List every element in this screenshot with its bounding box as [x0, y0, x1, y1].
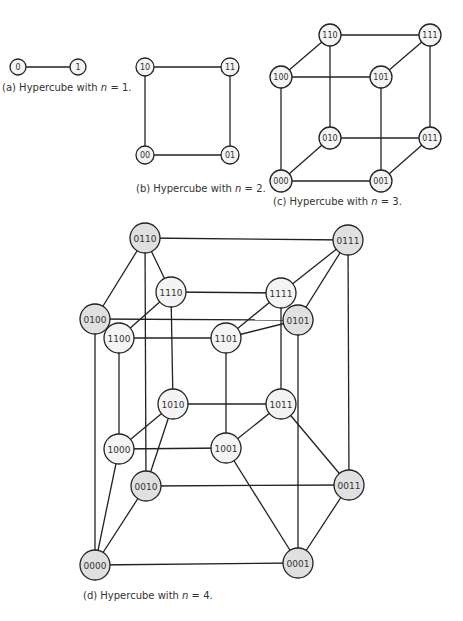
edges	[145, 67, 230, 155]
edge-0010-0011	[146, 485, 349, 486]
node-110: 110	[319, 24, 341, 46]
node-111: 111	[419, 24, 441, 46]
svg-text:101: 101	[373, 73, 388, 82]
svg-text:0110: 0110	[134, 234, 157, 244]
edge-0110-0111	[145, 238, 348, 240]
node-0010: 0010	[131, 471, 161, 501]
svg-text:110: 110	[322, 31, 337, 40]
caption-b: (b) Hypercube with n = 2.	[136, 183, 266, 194]
node-100: 100	[270, 66, 292, 88]
svg-text:001: 001	[373, 177, 388, 186]
svg-text:01: 01	[225, 151, 235, 160]
svg-text:000: 000	[273, 177, 288, 186]
edge-0111-0011	[348, 240, 349, 485]
svg-text:1010: 1010	[162, 400, 185, 410]
caption-c: (c) Hypercube with n = 3.	[273, 196, 402, 207]
svg-text:111: 111	[422, 31, 437, 40]
edge-1011-0011	[281, 404, 349, 485]
node-00: 00	[136, 146, 154, 164]
svg-text:1111: 1111	[270, 289, 293, 299]
edge-1001-0001	[226, 448, 298, 563]
svg-text:0111: 0111	[337, 236, 360, 246]
node-1110: 1110	[156, 277, 186, 307]
node-0011: 0011	[334, 470, 364, 500]
svg-text:1101: 1101	[215, 334, 238, 344]
caption-text: (b) Hypercube with	[136, 183, 235, 194]
svg-text:0001: 0001	[287, 559, 310, 569]
node-0111: 0111	[333, 225, 363, 255]
svg-text:0010: 0010	[135, 482, 158, 492]
node-10: 10	[136, 58, 154, 76]
node-101: 101	[370, 66, 392, 88]
svg-text:11: 11	[225, 63, 235, 72]
node-01: 01	[221, 146, 239, 164]
hypercube-n-c: 110111100101010011000001	[270, 24, 441, 192]
svg-text:1: 1	[75, 63, 80, 72]
node-0001: 0001	[283, 548, 313, 578]
node-1: 1	[70, 59, 86, 75]
svg-text:00: 00	[140, 151, 150, 160]
edge-1000-1001	[119, 448, 226, 449]
node-1101: 1101	[211, 323, 241, 353]
node-1001: 1001	[211, 433, 241, 463]
svg-text:0011: 0011	[338, 481, 361, 491]
svg-text:0000: 0000	[84, 561, 107, 571]
hypercube-diagrams: 0110110001110111100101010011000001011001…	[0, 0, 463, 621]
edge-1110-1111	[171, 292, 281, 293]
svg-text:100: 100	[273, 73, 288, 82]
edge-1110-1010	[171, 292, 173, 404]
node-11: 11	[221, 58, 239, 76]
node-0000: 0000	[80, 550, 110, 580]
svg-text:1001: 1001	[215, 444, 238, 454]
svg-text:1011: 1011	[270, 400, 293, 410]
node-010: 010	[319, 127, 341, 149]
svg-text:1110: 1110	[160, 288, 183, 298]
node-0100: 0100	[80, 304, 110, 334]
edge-0000-0001	[95, 563, 298, 565]
node-1111: 1111	[266, 278, 296, 308]
svg-text:011: 011	[422, 134, 437, 143]
node-0101: 0101	[283, 305, 313, 335]
svg-text:010: 010	[322, 134, 337, 143]
node-1000: 1000	[104, 434, 134, 464]
node-1100: 1100	[104, 323, 134, 353]
caption-a: (a) Hypercube with n = 1.	[2, 82, 131, 93]
svg-text:1000: 1000	[108, 445, 131, 455]
node-000: 000	[270, 170, 292, 192]
node-0110: 0110	[130, 223, 160, 253]
svg-text:0100: 0100	[84, 315, 107, 325]
hypercube-n-d: 0110011111101111010001011100110110101011…	[80, 223, 364, 580]
caption-d: (d) Hypercube with n = 4.	[83, 590, 213, 601]
node-011: 011	[419, 127, 441, 149]
caption-value: = 3.	[378, 196, 402, 207]
edges	[95, 238, 349, 565]
edges	[281, 35, 430, 181]
caption-text: (c) Hypercube with	[273, 196, 371, 207]
caption-value: = 1.	[107, 82, 131, 93]
hypercube-n-b: 10110001	[136, 58, 239, 164]
node-0: 0	[10, 59, 26, 75]
hypercube-n-a: 01	[10, 59, 86, 75]
caption-text: (d) Hypercube with	[83, 590, 182, 601]
node-1011: 1011	[266, 389, 296, 419]
caption-value: = 2.	[241, 183, 265, 194]
svg-text:10: 10	[140, 63, 150, 72]
node-1010: 1010	[158, 389, 188, 419]
edge-0100-0101	[95, 319, 298, 320]
node-001: 001	[370, 170, 392, 192]
svg-text:1100: 1100	[108, 334, 131, 344]
svg-text:0101: 0101	[287, 316, 310, 326]
caption-text: (a) Hypercube with	[2, 82, 101, 93]
caption-value: = 4.	[188, 590, 212, 601]
svg-text:0: 0	[15, 63, 20, 72]
